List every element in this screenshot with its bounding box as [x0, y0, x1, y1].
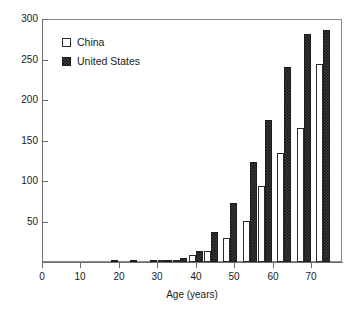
x-axis-tick	[234, 263, 235, 268]
x-axis-tick-label: 10	[65, 271, 95, 282]
x-axis-tick	[42, 263, 43, 268]
bar-us-age-36	[180, 258, 187, 262]
x-axis-tick-label: 50	[219, 271, 249, 282]
legend-label-united-states: United States	[77, 56, 140, 67]
bar-china-age-68	[297, 128, 304, 262]
bar-china-age-54	[243, 221, 250, 262]
y-axis-tick-label: 150	[4, 136, 38, 146]
bar-china-age-36	[173, 260, 180, 262]
bar-us-age-23	[130, 260, 137, 262]
x-axis-tick	[80, 263, 81, 268]
bar-us-age-40	[196, 251, 203, 262]
bar-us-age-58	[265, 120, 272, 262]
x-axis-line	[42, 262, 343, 263]
bar-china-age-40	[189, 255, 196, 262]
chart-legend: China United States	[62, 35, 182, 73]
x-axis-tick-label: 40	[181, 271, 211, 282]
bar-us-age-28	[150, 260, 157, 262]
x-axis-tick-label: 0	[27, 271, 57, 282]
x-axis-tick	[273, 263, 274, 268]
y-axis-labels: 50100150200250300	[0, 0, 38, 310]
bar-us-age-54	[250, 162, 257, 262]
x-axis-tick-label: 30	[142, 271, 172, 282]
open-square-swatch-icon	[62, 38, 71, 47]
bar-us-age-68	[304, 34, 311, 262]
x-axis-tick-label: 20	[104, 271, 134, 282]
y-axis-tick-label: 100	[4, 176, 38, 186]
bar-china-age-73	[316, 64, 323, 262]
x-axis-title: Age (years)	[42, 289, 342, 300]
filled-checkered-square-swatch-icon	[62, 57, 71, 66]
y-axis-tick-label: 50	[4, 217, 38, 227]
chart-figure: 50100150200250300 010203040506070 China …	[0, 0, 353, 310]
legend-label-china: China	[77, 37, 104, 48]
y-axis-tick-label: 300	[4, 14, 38, 24]
bar-china-age-63	[277, 153, 284, 262]
legend-item-china: China	[62, 35, 182, 50]
bar-us-age-18	[111, 260, 118, 262]
x-axis-tick	[311, 263, 312, 268]
bar-us-age-63	[284, 67, 291, 262]
legend-item-united-states: United States	[62, 54, 182, 69]
bar-us-age-32	[165, 260, 172, 262]
y-axis-tick-label: 250	[4, 55, 38, 65]
x-axis-tick	[196, 263, 197, 268]
y-axis-tick-label: 200	[4, 95, 38, 105]
bar-us-age-73	[323, 30, 330, 262]
x-axis-tick-label: 60	[258, 271, 288, 282]
bar-us-age-44	[211, 232, 218, 262]
bar-china-age-49	[223, 238, 230, 262]
bar-china-age-44	[204, 251, 211, 262]
bar-china-age-58	[258, 186, 265, 262]
bar-us-age-49	[230, 203, 237, 262]
x-axis-tick-label: 70	[296, 271, 326, 282]
bar-china-age-32	[158, 260, 165, 262]
x-axis-tick	[119, 263, 120, 268]
x-axis-tick	[157, 263, 158, 268]
